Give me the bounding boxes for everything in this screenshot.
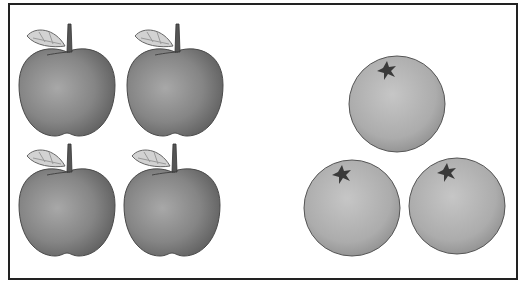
orange-3 [409, 158, 505, 254]
apple-3 [19, 144, 115, 256]
orange-2 [304, 160, 400, 256]
apple-1 [19, 24, 115, 136]
apple-4 [124, 144, 220, 256]
fruit-illustration [0, 0, 523, 286]
apple-2 [127, 24, 223, 136]
orange-1 [349, 56, 445, 152]
